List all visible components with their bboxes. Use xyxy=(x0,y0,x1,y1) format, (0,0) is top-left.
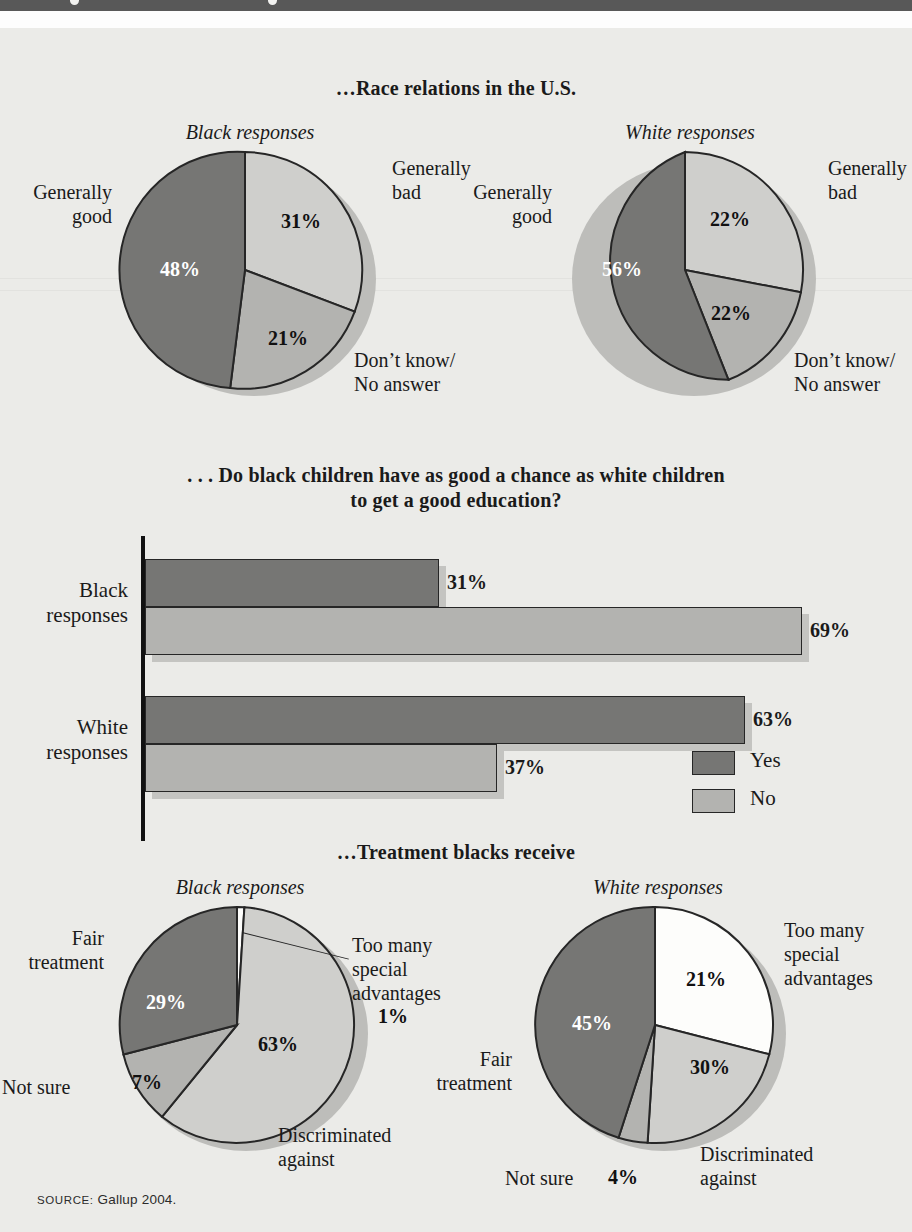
pie-slices-treatment-white xyxy=(528,905,794,1155)
pie-value-fair-treatment: 45% xyxy=(572,1012,612,1035)
bar-black-no xyxy=(145,607,802,655)
cropped-header-bar xyxy=(0,0,912,11)
bar-value-black-no: 69% xyxy=(810,619,850,642)
pie-label-fair-treatment-black: Fair treatment xyxy=(0,926,104,974)
label-text: Not sure xyxy=(2,1076,70,1098)
source-value: Gallup 2004. xyxy=(98,1192,177,1207)
section-title-education-line1: . . . Do black children have as good a c… xyxy=(0,463,912,488)
pie-value-not-sure-white: 4% xyxy=(608,1166,638,1189)
bar-value-white-yes: 63% xyxy=(753,708,793,731)
label-text: Not sure xyxy=(505,1167,573,1189)
pie-label-dont-know-white: Don’t know/ No answer xyxy=(794,348,895,396)
label-text: Too many special advantages xyxy=(784,919,873,989)
caption-white-responses-treatment: White responses xyxy=(528,876,788,899)
pie-chart-race-black: 48% 31% 21% xyxy=(118,150,384,400)
pie-label-fair-treatment-white: Fair treatment xyxy=(386,1047,512,1095)
section-title-education-line2: to get a good education? xyxy=(0,488,912,513)
label-text: Generally good xyxy=(33,181,112,227)
source-note: SOURCE: Gallup 2004. xyxy=(37,1192,177,1207)
label-text: Black responses xyxy=(46,578,128,627)
pie-value-discriminated: 63% xyxy=(258,1033,298,1056)
pie-value-dont-know: 22% xyxy=(711,302,751,325)
pie-label-generally-good-black: Generally good xyxy=(0,180,112,228)
pie-value-fair-treatment: 29% xyxy=(146,991,186,1014)
pie-value-not-sure: 7% xyxy=(132,1071,162,1094)
pie-label-too-many-white: Too many special advantages xyxy=(784,918,873,990)
header-dot-icon xyxy=(268,0,277,5)
label-text: Too many special advantages xyxy=(352,934,441,1004)
pie-label-not-sure-black: Not sure xyxy=(2,1075,70,1099)
figure-page: …Race relations in the U.S. Black respon… xyxy=(0,0,912,1232)
bar-value-white-no: 37% xyxy=(505,756,545,779)
label-text: Discriminated against xyxy=(278,1124,391,1170)
bar-group-label-black: Black responses xyxy=(0,578,128,628)
pie-value-generally-bad: 22% xyxy=(710,208,750,231)
pie-value-too-many: 21% xyxy=(686,968,726,991)
pie-slices-treatment-black xyxy=(110,905,376,1155)
label-text: Fair treatment xyxy=(28,927,104,973)
pie-value-generally-bad: 31% xyxy=(281,210,321,233)
legend-swatch-yes xyxy=(692,751,735,775)
pie-value-generally-good: 56% xyxy=(602,258,642,281)
caption-black-responses-race: Black responses xyxy=(120,121,380,144)
pie-label-discriminated-white: Discriminated against xyxy=(700,1142,813,1190)
pie-label-dont-know-black: Don’t know/ No answer xyxy=(354,348,455,396)
page-margin-gap xyxy=(0,11,912,28)
label-text: Generally good xyxy=(473,181,552,227)
caption-black-responses-treatment: Black responses xyxy=(110,876,370,899)
bar-white-yes xyxy=(145,696,745,744)
pie-value-discriminated: 30% xyxy=(690,1056,730,1079)
pie-value-too-many-black: 1% xyxy=(378,1005,408,1028)
bar-white-no xyxy=(145,744,497,792)
pie-label-generally-bad-white: Generally bad xyxy=(828,156,907,204)
label-text: Don’t know/ No answer xyxy=(354,349,455,395)
figure-content: …Race relations in the U.S. Black respon… xyxy=(0,28,912,1232)
header-dot-icon xyxy=(70,0,79,5)
pie-chart-treatment-white: 45% 21% 30% xyxy=(528,905,794,1155)
bar-black-yes xyxy=(145,559,439,607)
bar-group-label-white: White responses xyxy=(0,715,128,765)
legend-label-yes: Yes xyxy=(750,748,781,773)
bar-value-black-yes: 31% xyxy=(447,571,487,594)
pie-label-discriminated-black: Discriminated against xyxy=(278,1123,391,1171)
pie-label-too-many-black: Too many special advantages xyxy=(352,933,441,1005)
caption-white-responses-race: White responses xyxy=(560,121,820,144)
pie-value-generally-good: 48% xyxy=(160,258,200,281)
label-text: Don’t know/ No answer xyxy=(794,349,895,395)
pie-value-dont-know: 21% xyxy=(268,327,308,350)
legend-swatch-no xyxy=(692,789,735,813)
label-text: White responses xyxy=(46,715,128,764)
label-text: Fair treatment xyxy=(436,1048,512,1094)
source-prefix: SOURCE: xyxy=(37,1194,94,1206)
pie-slices-race-black xyxy=(118,150,384,400)
pie-chart-race-white: 56% 22% 22% xyxy=(558,150,824,400)
pie-slices-race-white xyxy=(558,150,824,400)
section-title-race-relations: …Race relations in the U.S. xyxy=(0,76,912,101)
label-text: Generally bad xyxy=(828,157,907,203)
legend-label-no: No xyxy=(750,786,776,811)
label-text: Discriminated against xyxy=(700,1143,813,1189)
pie-label-not-sure-white: Not sure xyxy=(505,1166,573,1190)
pie-chart-treatment-black: 29% 63% 7% xyxy=(110,905,376,1155)
pie-label-generally-good-white: Generally good xyxy=(424,180,552,228)
section-title-treatment: …Treatment blacks receive xyxy=(0,840,912,865)
